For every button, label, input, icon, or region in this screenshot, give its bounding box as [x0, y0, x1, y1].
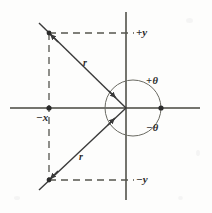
label-negative-x: −x: [36, 112, 48, 123]
point-marker-negative-x: [46, 105, 51, 110]
label-positive-y: +y: [136, 27, 147, 38]
polar-angle-diagram: +y −y −x +θ −θ r r: [0, 0, 212, 213]
upper-endpoint-arrow-icon: [50, 34, 58, 42]
scan-speckle: [178, 196, 183, 200]
point-marker-circle-right: [158, 105, 163, 110]
label-positive-theta: +θ: [146, 76, 158, 87]
point-marker-lower-endpoint: [47, 178, 52, 183]
label-negative-y: −y: [136, 174, 148, 185]
diagram-canvas: [0, 0, 212, 213]
lower-endpoint-arrow-icon: [50, 171, 58, 179]
point-marker-upper-endpoint: [47, 31, 52, 36]
label-r-upper: r: [83, 58, 87, 68]
scan-speckle: [14, 196, 20, 200]
scan-speckle: [196, 150, 200, 156]
upper-ray-arrow-icon: [109, 91, 116, 98]
scan-speckle: [186, 18, 193, 23]
lower-ray-arrow-icon: [108, 118, 115, 125]
label-negative-theta: −θ: [146, 123, 159, 134]
label-r-lower: r: [79, 152, 83, 162]
